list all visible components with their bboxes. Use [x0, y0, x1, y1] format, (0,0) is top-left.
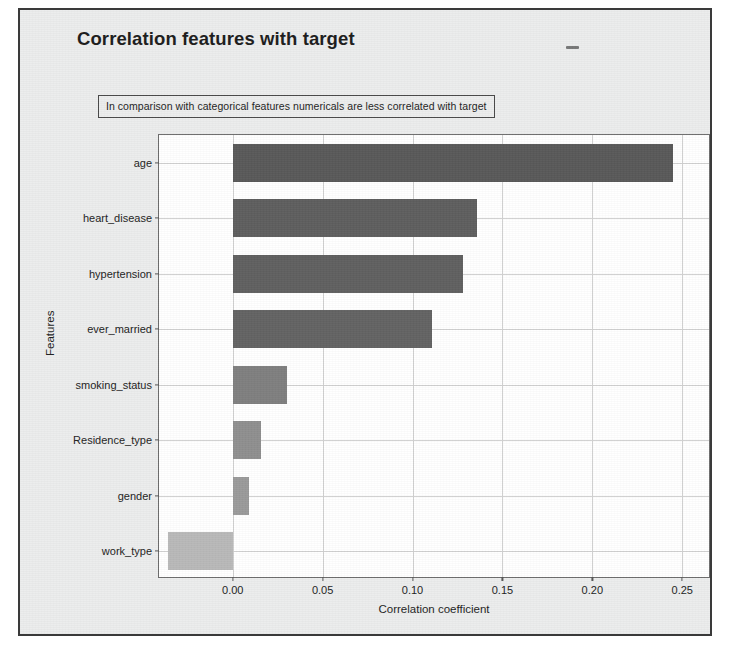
y-tick-label-work_type: work_type	[102, 545, 152, 557]
bar-heart_disease	[233, 199, 478, 237]
y-tick-mark	[155, 329, 159, 330]
x-tick-mark	[232, 577, 233, 581]
plot-inner	[159, 135, 709, 577]
y-tick-label-age: age	[134, 157, 152, 169]
y-tick-mark	[155, 273, 159, 274]
x-tick-label-0.15: 0.15	[492, 584, 513, 596]
y-tick-mark	[155, 551, 159, 552]
bar-age	[233, 144, 674, 182]
page-canvas: Correlation features with target In comp…	[0, 0, 729, 651]
gridline-vertical	[502, 135, 503, 577]
x-tick-label-0.25: 0.25	[672, 584, 693, 596]
x-tick-label-0.20: 0.20	[582, 584, 603, 596]
y-tick-mark	[155, 384, 159, 385]
gridline-vertical	[592, 135, 593, 577]
y-tick-mark	[155, 440, 159, 441]
y-tick-mark	[155, 218, 159, 219]
x-tick-label-0.00: 0.00	[222, 584, 243, 596]
x-tick-mark	[682, 577, 683, 581]
y-tick-label-heart_disease: heart_disease	[83, 212, 152, 224]
x-tick-mark	[412, 577, 413, 581]
y-tick-label-Residence_type: Residence_type	[73, 434, 152, 446]
x-tick-label-0.10: 0.10	[402, 584, 423, 596]
y-tick-label-gender: gender	[118, 490, 152, 502]
scan-artifact-mark	[566, 46, 579, 49]
x-tick-label-0.05: 0.05	[312, 584, 333, 596]
bar-smoking_status	[233, 366, 287, 404]
bar-Residence_type	[233, 421, 262, 459]
x-tick-mark	[322, 577, 323, 581]
y-tick-label-smoking_status: smoking_status	[76, 379, 152, 391]
plot-area: ageheart_diseasehypertensionever_married…	[158, 134, 710, 578]
bar-ever_married	[233, 310, 433, 348]
x-axis-label: Correlation coefficient	[378, 603, 489, 615]
y-tick-mark	[155, 162, 159, 163]
gridline-vertical	[682, 135, 683, 577]
x-tick-mark	[592, 577, 593, 581]
annotation-textbox: In comparison with categorical features …	[98, 95, 495, 118]
figure-frame: Correlation features with target In comp…	[18, 8, 712, 636]
y-tick-label-hypertension: hypertension	[89, 268, 152, 280]
y-axis-label: Features	[44, 311, 56, 356]
y-tick-mark	[155, 495, 159, 496]
x-tick-mark	[502, 577, 503, 581]
bar-hypertension	[233, 255, 463, 293]
bar-work_type	[168, 532, 233, 570]
gridline-horizontal	[159, 551, 709, 552]
chart-title: Correlation features with target	[77, 28, 355, 50]
bar-gender	[233, 477, 249, 515]
y-tick-label-ever_married: ever_married	[87, 323, 152, 335]
